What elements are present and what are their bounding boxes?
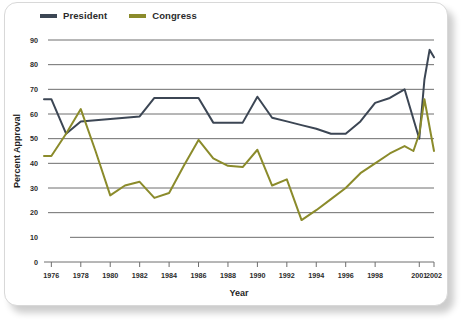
x-axis-tick-label: 1990 — [249, 271, 265, 280]
x-axis-tick-label: 1986 — [191, 271, 207, 280]
y-axis-tick-label: 30 — [30, 184, 38, 193]
y-axis-title: Percent Approval — [12, 114, 22, 188]
x-axis-tick-label: 1984 — [161, 271, 177, 280]
x-axis-tick-label: 1994 — [308, 271, 324, 280]
y-axis-tick-label: 70 — [30, 85, 38, 94]
x-axis-tick-label: 1982 — [132, 271, 148, 280]
y-axis-tick-label: 40 — [30, 159, 38, 168]
x-axis-tick-label: 1996 — [338, 271, 354, 280]
x-axis-tick-label: 2002 — [426, 271, 442, 280]
x-axis-tick-label: 1976 — [43, 271, 59, 280]
approval-line-chart: 0102030405060708090197619781980198219841… — [0, 0, 463, 321]
y-axis-tick-label: 80 — [30, 60, 38, 69]
chart-plot-area: 0102030405060708090197619781980198219841… — [0, 0, 463, 321]
y-axis-tick-label: 10 — [30, 233, 38, 242]
y-axis-tick-label: 60 — [30, 110, 38, 119]
x-axis-tick-label: 2001 — [411, 271, 427, 280]
y-axis-tick-label: 50 — [30, 134, 38, 143]
x-axis-title: Year — [229, 288, 249, 298]
y-axis-tick-label: 90 — [30, 36, 38, 45]
x-axis-tick-label: 1988 — [220, 271, 236, 280]
y-axis-tick-label: 0 — [34, 258, 38, 267]
x-axis-tick-label: 1992 — [279, 271, 295, 280]
x-axis-tick-label: 1978 — [73, 271, 89, 280]
series-line-congress — [44, 99, 434, 220]
x-axis-tick-label: 1980 — [102, 271, 118, 280]
y-axis-tick-label: 20 — [30, 208, 38, 217]
series-line-president — [44, 50, 434, 139]
x-axis-tick-label: 1998 — [367, 271, 383, 280]
